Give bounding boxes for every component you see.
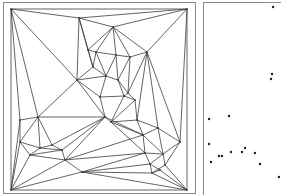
mesh-edge	[118, 57, 130, 80]
mesh-vertex	[81, 171, 83, 173]
mesh-edge	[11, 120, 20, 190]
mesh-vertex	[99, 96, 101, 98]
point-marker	[208, 118, 210, 120]
mesh-edge	[96, 27, 113, 52]
point-marker	[270, 78, 272, 80]
mesh-edge	[11, 172, 82, 190]
mesh-edge	[128, 57, 130, 93]
mesh-vertex	[37, 116, 39, 118]
mesh-vertex	[179, 141, 181, 143]
mesh-vertex	[159, 169, 161, 171]
mesh-edge	[30, 155, 65, 160]
mesh-edge	[40, 145, 52, 148]
mesh-vertex	[149, 163, 151, 165]
mesh-edge	[88, 50, 93, 67]
mesh-edge	[88, 27, 113, 50]
mesh-edge	[100, 76, 106, 97]
mesh-edge	[82, 164, 150, 172]
mesh-edge	[180, 9, 187, 142]
mesh-edge	[160, 170, 187, 190]
point-marker	[259, 163, 261, 165]
mesh-edge	[77, 80, 105, 117]
mesh-vertex	[10, 189, 12, 191]
mesh-edge	[165, 142, 180, 165]
point-marker	[244, 147, 246, 149]
point-marker	[254, 152, 256, 154]
mesh-edge	[30, 150, 62, 155]
mesh-vertex	[136, 119, 138, 121]
mesh-vertex	[112, 26, 114, 28]
mesh-vertex	[115, 54, 117, 56]
mesh-edge	[130, 52, 147, 57]
mesh-vertex	[19, 141, 21, 143]
points-panel	[204, 3, 282, 196]
point-marker	[278, 176, 280, 178]
mesh-edge	[106, 76, 118, 80]
mesh-edge	[79, 9, 187, 18]
mesh-vertex	[104, 116, 106, 118]
mesh-edge	[38, 117, 52, 145]
mesh-edge	[118, 80, 124, 96]
mesh-edge	[20, 117, 38, 120]
mesh-edge	[147, 9, 187, 52]
point-marker	[230, 151, 232, 153]
mesh-edge	[118, 80, 128, 93]
mesh-edge	[77, 80, 100, 97]
mesh-edges	[10, 8, 188, 191]
point-marker	[221, 155, 223, 157]
mesh-vertex	[123, 95, 125, 97]
mesh-edge	[135, 100, 137, 120]
mesh-edge	[77, 18, 79, 80]
mesh-vertex	[146, 51, 148, 53]
mesh-edge	[93, 52, 96, 67]
mesh-edge	[11, 142, 20, 190]
mesh-vertex	[157, 127, 159, 129]
mesh-vertex	[186, 8, 188, 10]
mesh-edge	[88, 50, 96, 52]
point-marker	[228, 115, 230, 117]
mesh-edge	[145, 153, 163, 154]
mesh-vertex	[61, 149, 63, 151]
mesh-edge	[65, 160, 82, 172]
mesh-vertex	[186, 189, 188, 191]
mesh-vertex	[151, 172, 153, 174]
mesh-vertex	[117, 79, 119, 81]
mesh-edge	[82, 172, 152, 173]
mesh-vertex	[134, 99, 136, 101]
mesh-edge	[20, 142, 40, 148]
mesh-edge	[96, 52, 116, 55]
point-marker	[241, 151, 243, 153]
mesh-edge	[38, 117, 40, 148]
mesh-vertex	[78, 17, 80, 19]
point-marker	[208, 143, 210, 145]
figure-canvas	[0, 0, 281, 195]
mesh-vertex	[92, 66, 94, 68]
mesh-panel	[4, 3, 196, 194]
mesh-edge	[106, 55, 116, 76]
points-outer-frame	[204, 3, 282, 196]
mesh-vertex	[87, 49, 89, 51]
mesh-edge	[62, 117, 105, 150]
point-marker	[271, 73, 273, 75]
mesh-edge	[100, 96, 124, 97]
mesh-edge	[20, 117, 38, 142]
mesh-vertex	[142, 134, 144, 136]
mesh-edge	[165, 165, 187, 190]
mesh-vertex	[127, 92, 129, 94]
mesh-edge	[163, 154, 165, 165]
mesh-edge	[147, 52, 158, 128]
mesh-vertex	[129, 56, 131, 58]
mesh-edge	[111, 96, 124, 122]
mesh-vertex	[105, 75, 107, 77]
mesh-vertex	[144, 152, 146, 154]
mesh-vertex	[39, 147, 41, 149]
mesh-vertex	[162, 153, 164, 155]
mesh-vertex	[95, 51, 97, 53]
mesh-vertex	[10, 8, 12, 10]
mesh-edge	[158, 128, 180, 142]
mesh-edge	[145, 153, 150, 164]
mesh-vertex	[29, 154, 31, 156]
mesh-edge	[116, 55, 118, 80]
mesh-edge	[79, 18, 113, 27]
mesh-vertex	[51, 144, 53, 146]
